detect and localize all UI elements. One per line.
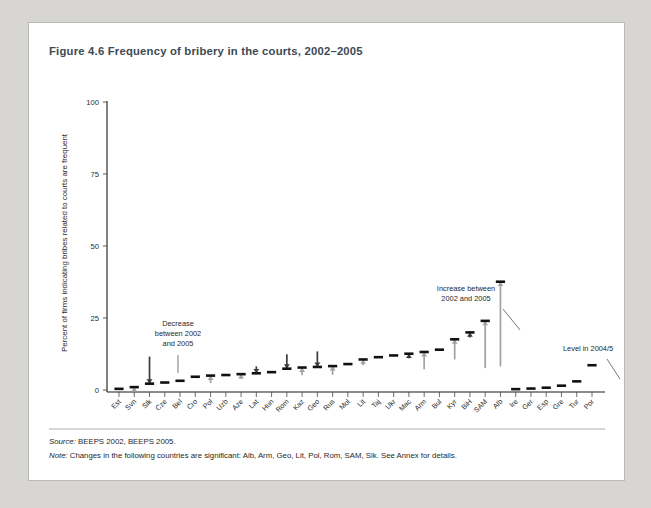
x-axis-tick-label: Ire [508,398,520,410]
screenshot-root: Figure 4.6 Frequency of bribery in the c… [0,0,651,508]
x-axis-tick-label: Tur [568,397,581,410]
x-axis-tick-label: Por [582,397,596,411]
x-axis-tick-label: Pol [202,397,215,410]
page-title: Figure 4.6 Frequency of bribery in the c… [49,45,363,57]
y-axis-title: Percent of firms indicating bribes relat… [60,133,69,352]
x-axis-tick-label: Mol [338,397,352,411]
x-axis-tick-label: Rus [322,397,337,412]
x-axis-tick-label: Est [110,398,123,411]
x-axis-tick-label: Kyr [445,397,459,411]
x-axis-tick-label: Gre [551,398,565,412]
x-axis-tick-label: Arm [413,398,428,413]
x-axis-tick-label: Alb [491,398,504,411]
x-axis-tick-label: Kaz [292,397,307,412]
x-axis-tick-label: Esp [536,398,550,412]
x-axis-tick-label: Taj [370,397,382,409]
x-axis-tick-label: Cro [185,398,199,412]
annotation-leader-increase [503,309,520,330]
annotation-decrease: Decrease [162,319,194,328]
x-axis-tick-label: Bul [430,397,443,410]
source-label: Source: [49,437,76,446]
y-axis-tick-label: 50 [91,242,99,251]
x-axis-tick-label: Mac [398,397,413,412]
x-axis-tick-label: Slk [141,397,154,410]
x-axis-tick-label: SAM [473,398,490,415]
x-axis-tick-label: Ger [521,397,535,411]
x-axis-tick-label: Hun [261,398,276,413]
x-axis-tick-label: Uzb [215,398,230,413]
y-axis-tick-label: 100 [86,98,99,107]
annotation-decrease: between 2002 [155,329,201,338]
note-label: Note: [49,451,68,460]
source-text: BEEPS 2002, BEEPS 2005. [78,437,176,446]
figure-svg: Figure 4.6 Frequency of bribery in the c… [29,23,622,478]
x-axis-tick-label: Bel [171,397,184,410]
x-axis-tick-label: Aze [231,398,245,412]
x-axis-tick-label: BiH [460,398,474,412]
note-line: Note: Changes in the following countries… [49,451,457,460]
annotation-decrease: and 2005 [163,339,194,348]
x-axis-tick-label: Cze [154,398,169,413]
x-axis-tick-label: Geo [306,398,321,413]
x-axis-tick-label: Ukr [384,397,398,411]
source-line: Source: BEEPS 2002, BEEPS 2005. [49,437,176,446]
x-axis-tick-label: Lit [356,398,367,409]
x-axis-tick-label: Svn [124,398,138,412]
figure-card: Figure 4.6 Frequency of bribery in the c… [28,22,625,481]
x-axis-tick-label: Rom [275,398,291,414]
annotation-increase: Increase between [437,284,495,293]
plot-area: 0255075100EstSvnSlkCzeBelCroPolUzbAzeLat… [86,98,620,414]
y-axis-tick-label: 75 [91,170,99,179]
y-axis-tick-label: 25 [91,314,99,323]
annotation-increase: 2002 and 2005 [441,294,490,303]
note-text: Changes in the following countries are s… [70,451,457,460]
y-axis-tick-label: 0 [95,386,99,395]
x-axis-tick-label: Lat [248,398,261,411]
annotation-leader-level [607,359,620,379]
annotation-level: Level in 2004/5 [563,344,613,353]
